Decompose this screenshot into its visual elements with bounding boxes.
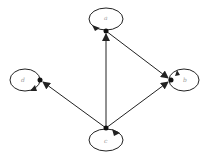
- node-label-c: c: [104, 137, 108, 144]
- graph-diagram: a d b c: [0, 0, 216, 160]
- node-a: [104, 29, 109, 34]
- node-d: [38, 78, 43, 83]
- node-b: [169, 78, 174, 83]
- edge-c-to-b: [106, 82, 168, 128]
- node-label-b: b: [183, 76, 187, 83]
- node-label-d: d: [21, 76, 25, 83]
- edge-c-to-d: [43, 82, 106, 128]
- loop-arrowhead-a: [92, 25, 100, 31]
- loop-arrowhead-d: [30, 85, 37, 91]
- node-c: [104, 126, 109, 131]
- edge-a-to-b: [106, 31, 168, 78]
- node-label-a: a: [104, 14, 108, 21]
- loop-arrowhead-c: [112, 129, 120, 136]
